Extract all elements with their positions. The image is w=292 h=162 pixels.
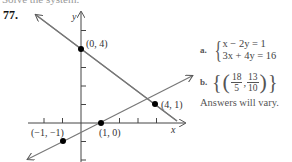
point-4-1 — [152, 101, 158, 107]
coordinate-graph: y x (0, 4) (4, 1) (1, 0) (−1, −1) — [0, 0, 200, 162]
point-0-4 — [78, 46, 84, 52]
fraction-x: 18 5 — [231, 72, 243, 93]
equation-2: 3x + 4y = 16 — [222, 50, 276, 62]
answer-a-letter: a. — [200, 45, 212, 55]
open-paren-icon: ( — [223, 69, 230, 95]
comma: , — [243, 77, 246, 88]
fraction-y: 13 10 — [247, 72, 259, 93]
answer-b: b. { ( 18 5 , 13 10 ) } — [200, 69, 292, 95]
set-close-brace-icon: } — [268, 71, 278, 94]
y-axis: y — [71, 11, 86, 162]
close-paren-icon: ) — [260, 69, 267, 95]
fraction-x-numerator: 18 — [231, 72, 243, 83]
answers-note: Answers will vary. — [200, 97, 292, 108]
label-4-1: (4, 1) — [161, 99, 183, 111]
label-1-0: (1, 0) — [99, 127, 121, 139]
answer-a: a. { x − 2y = 1 3x + 4y = 16 — [200, 38, 292, 62]
x-axis-label: x — [170, 124, 176, 135]
fraction-x-denominator: 5 — [234, 83, 239, 93]
fraction-y-numerator: 13 — [247, 72, 259, 83]
point-1-0 — [98, 120, 104, 126]
answers-panel: a. { x − 2y = 1 3x + 4y = 16 b. { ( 18 5… — [200, 38, 292, 108]
point-neg1-neg1 — [60, 138, 66, 144]
label-neg1-neg1: (−1, −1) — [31, 127, 64, 139]
equation-1: x − 2y = 1 — [222, 38, 276, 50]
left-brace-icon: { — [214, 38, 221, 62]
set-open-brace-icon: { — [212, 71, 222, 94]
y-axis-label: y — [71, 11, 77, 22]
equation-system: x − 2y = 1 3x + 4y = 16 — [222, 38, 276, 62]
label-0-4: (0, 4) — [86, 38, 108, 50]
fraction-y-denominator: 10 — [248, 83, 258, 93]
answer-b-letter: b. — [200, 77, 212, 87]
